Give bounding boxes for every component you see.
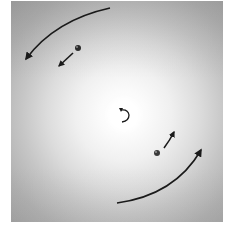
ball-upper-highlight — [76, 46, 78, 48]
ball-lower-highlight — [155, 151, 157, 153]
diagram-overlay — [0, 0, 225, 229]
rotation-center-icon — [121, 110, 129, 122]
ball-lower — [154, 150, 160, 156]
ball-upper — [75, 45, 81, 51]
arc-arrow-upper-icon — [26, 8, 110, 59]
motion-arrow-upper-icon — [59, 53, 73, 66]
arc-arrow-lower-icon — [117, 150, 201, 203]
motion-arrow-lower-icon — [164, 132, 174, 148]
